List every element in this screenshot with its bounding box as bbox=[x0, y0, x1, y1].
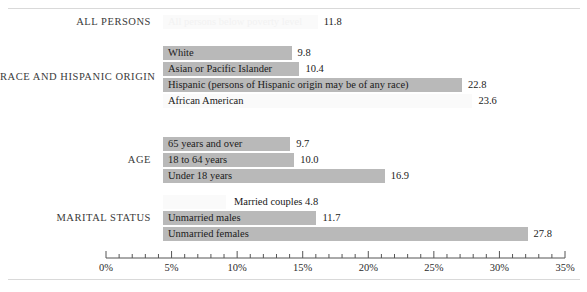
bar-value: 10.4 bbox=[305, 61, 323, 76]
bar-value: 22.8 bbox=[468, 77, 486, 92]
bar-label: Asian or Pacific Islander bbox=[168, 61, 272, 76]
bar-label: 65 years and over bbox=[168, 136, 242, 151]
bar-row: White9.8 bbox=[163, 45, 587, 60]
bar-row: All persons below poverty level11.8 bbox=[163, 14, 587, 29]
bar-value: 10.0 bbox=[300, 152, 318, 167]
bar-row: Asian or Pacific Islander10.4 bbox=[163, 61, 587, 76]
axis-tick-label: 15% bbox=[293, 262, 312, 273]
bar-value: 9.8 bbox=[298, 45, 311, 60]
group-label-race-and-hispanic-origin: RACE AND HISPANIC ORIGIN bbox=[0, 71, 151, 83]
bar-row: Hispanic (persons of Hispanic origin may… bbox=[163, 77, 587, 92]
bar-label: Unmarried females bbox=[168, 226, 249, 241]
bar-married-couples bbox=[163, 194, 226, 209]
axis-tick-label: 20% bbox=[359, 262, 378, 273]
bar-row: 65 years and over9.7 bbox=[163, 136, 587, 151]
bar-row: Under 18 years16.9 bbox=[163, 168, 587, 183]
bar-value: 9.7 bbox=[296, 136, 309, 151]
group-label-all-persons: ALL PERSONS bbox=[0, 16, 151, 28]
bar-row: Unmarried females27.8 bbox=[163, 226, 587, 241]
axis-tick-label: 25% bbox=[424, 262, 443, 273]
poverty-rate-bar-chart: ALL PERSONSAll persons below poverty lev… bbox=[0, 0, 587, 292]
bar-label: Under 18 years bbox=[168, 168, 232, 183]
bar-label: 18 to 64 years bbox=[168, 152, 227, 167]
axis-tick-label: 35% bbox=[555, 262, 574, 273]
axis-tick-label: 30% bbox=[490, 262, 509, 273]
bar-outside-label: Married couples 4.8 bbox=[234, 194, 318, 209]
bar-value: 11.8 bbox=[324, 14, 342, 29]
bar-label: Hispanic (persons of Hispanic origin may… bbox=[168, 77, 409, 92]
bar-row: Unmarried males11.7 bbox=[163, 210, 587, 225]
bar-value: 16.9 bbox=[391, 168, 409, 183]
top-divider-rule bbox=[8, 8, 580, 9]
bar-row: 18 to 64 years10.0 bbox=[163, 152, 587, 167]
bar-value: 27.8 bbox=[534, 226, 552, 241]
bar-label: Unmarried males bbox=[168, 210, 241, 225]
bar-row: Married couples 4.8 bbox=[163, 194, 587, 209]
bar-value: 11.7 bbox=[322, 210, 340, 225]
bar-label: White bbox=[168, 45, 194, 60]
group-label-age: AGE bbox=[0, 154, 151, 166]
bottom-divider-rule bbox=[8, 279, 580, 280]
axis-tick-label: 5% bbox=[165, 262, 179, 273]
bar-label: All persons below poverty level bbox=[168, 14, 302, 29]
bar-label: African American bbox=[168, 93, 244, 108]
axis-tick-label: 0% bbox=[99, 262, 113, 273]
bar-value: 23.6 bbox=[478, 93, 496, 108]
group-label-marital-status: MARITAL STATUS bbox=[0, 212, 151, 224]
axis-tick-label: 10% bbox=[228, 262, 247, 273]
bar-row: African American23.6 bbox=[163, 93, 587, 108]
